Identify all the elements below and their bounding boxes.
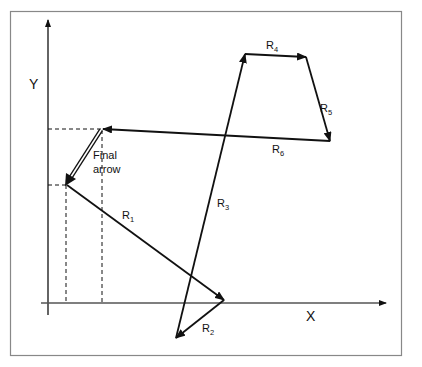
vector-r5: [306, 57, 330, 141]
label-r4: R4: [266, 39, 278, 54]
frame: [11, 12, 402, 356]
final-arrow-label: Final arrow: [93, 149, 121, 175]
vector-r6: [103, 129, 330, 141]
x-axis-label: X: [306, 308, 316, 324]
y-axis-label: Y: [29, 76, 39, 92]
vector-r4: [245, 54, 306, 57]
vector-addition-diagram: Y X Final arrow R1 R2 R3 R4 R5 R6: [0, 0, 422, 367]
label-r2: R2: [202, 322, 214, 337]
vector-r1: [67, 185, 224, 300]
label-r6: R6: [272, 143, 284, 158]
label-r1: R1: [122, 209, 134, 224]
label-r3: R3: [217, 197, 229, 212]
vector-r3: [176, 54, 245, 338]
